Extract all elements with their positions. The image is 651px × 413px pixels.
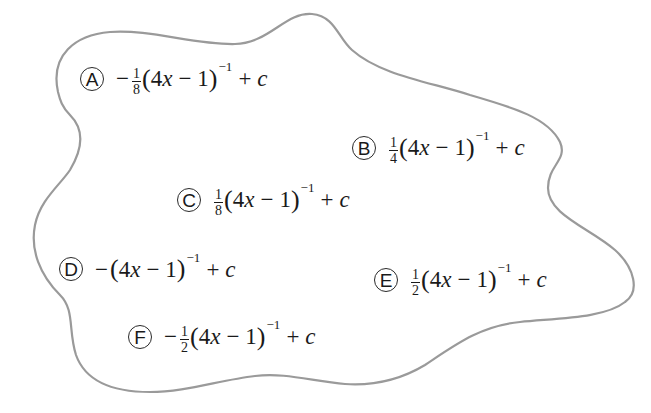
- option-f[interactable]: F − 1 2 (4x−1)−1 +c: [128, 322, 316, 351]
- option-a[interactable]: A − 1 8 (4x−1)−1 +c: [80, 64, 268, 93]
- fraction: 1 2: [411, 268, 420, 297]
- option-label-d: D: [59, 257, 83, 281]
- option-label-a: A: [80, 67, 104, 91]
- fraction: 1 8: [132, 67, 141, 96]
- option-d-expression: − (4x−1)−1 +c: [95, 256, 236, 282]
- option-label-c: C: [177, 188, 201, 212]
- option-c[interactable]: C 1 8 (4x−1)−1 +c: [177, 185, 350, 214]
- option-c-expression: 1 8 (4x−1)−1 +c: [213, 185, 350, 214]
- option-f-expression: − 1 2 (4x−1)−1 +c: [164, 322, 316, 351]
- option-label-f: F: [128, 325, 152, 349]
- fraction: 1 8: [214, 188, 223, 217]
- option-e[interactable]: E 1 2 (4x−1)−1 +c: [374, 265, 547, 294]
- option-b-expression: 1 4 (4x−1)−1 +c: [388, 133, 525, 162]
- option-a-expression: − 1 8 (4x−1)−1 +c: [116, 64, 268, 93]
- option-e-expression: 1 2 (4x−1)−1 +c: [410, 265, 547, 294]
- option-d[interactable]: D − (4x−1)−1 +c: [59, 256, 236, 282]
- option-label-b: B: [352, 136, 376, 160]
- fraction: 1 4: [389, 136, 398, 165]
- fraction: 1 2: [180, 325, 189, 354]
- option-b[interactable]: B 1 4 (4x−1)−1 +c: [352, 133, 525, 162]
- option-label-e: E: [374, 268, 398, 292]
